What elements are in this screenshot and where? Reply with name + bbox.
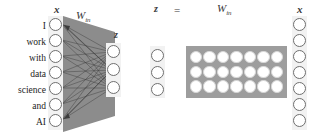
word-item: AI [36,118,46,128]
hidden-node-column [106,43,121,97]
input-node [49,66,62,79]
matrix-row [190,79,283,94]
matrix-row [190,50,283,65]
input-node [49,114,62,127]
label-x-left: x [54,4,60,15]
hidden-node [107,45,120,58]
rhs-vector-column [292,16,307,130]
matrix-cell [257,51,269,63]
label-z-left: z [114,30,118,40]
matrix-cell [257,66,269,78]
rhs-vector-node [293,98,306,111]
lhs-vector-node [151,66,164,79]
label-w-in-right: Win [217,3,232,17]
word-list: I work with data science and AI [0,0,46,140]
word-item: with [29,54,46,64]
matrix-cell [190,80,202,92]
weight-matrix [186,46,287,98]
input-node [49,34,62,47]
hidden-node [107,81,120,94]
word-item: science [18,86,46,96]
matrix-cell [271,51,283,63]
rhs-vector-node [293,82,306,95]
word-item: data [30,70,46,80]
hidden-node [107,63,120,76]
equals-sign: = [174,5,180,16]
rhs-vector-node [293,66,306,79]
word-item: I [43,22,46,32]
matrix-cell [271,80,283,92]
matrix-cell [244,66,256,78]
matrix-row [190,65,283,80]
input-node-column [48,16,63,130]
matrix-cell [203,66,215,78]
matrix-cell [230,66,242,78]
matrix-cell [217,66,229,78]
input-node [49,50,62,63]
word-item: and [32,102,46,112]
label-x-right: x [297,4,303,15]
input-node [49,18,62,31]
matrix-cell [190,66,202,78]
rhs-vector-node [293,34,306,47]
matrix-cell [271,66,283,78]
label-z-right: z [154,4,158,14]
lhs-vector-column [150,46,165,98]
input-node [49,98,62,111]
matrix-cell [203,80,215,92]
matrix-cell [257,80,269,92]
lhs-vector-node [151,49,164,62]
matrix-cell [217,51,229,63]
rhs-vector-node [293,18,306,31]
matrix-cell [217,80,229,92]
word-item: work [26,38,46,48]
matrix-cell [230,51,242,63]
matrix-cell [244,51,256,63]
matrix-cell [190,51,202,63]
matrix-cell [230,80,242,92]
input-node [49,82,62,95]
lhs-vector-node [151,83,164,96]
rhs-vector-node [293,50,306,63]
label-w-in-left: Win [76,10,91,24]
matrix-cell [244,80,256,92]
matrix-cell [203,51,215,63]
embedding-diagram: I work with data science and AI x Win [0,0,320,140]
rhs-vector-node [293,114,306,127]
